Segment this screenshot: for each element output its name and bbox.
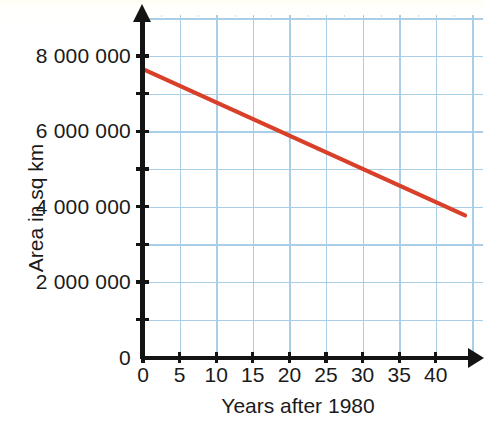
x-axis-line (141, 356, 473, 361)
grid-line-horizontal-major (143, 56, 483, 57)
x-axis-tick (251, 352, 254, 363)
y-axis-line (140, 15, 145, 359)
x-axis-tick (215, 352, 218, 363)
grid-line-horizontal-minor (143, 112, 483, 113)
grid-line-vertical-major (363, 15, 364, 357)
x-axis-tick (361, 352, 364, 363)
grid-line-vertical-major (180, 15, 181, 357)
y-axis-tick (136, 130, 149, 133)
grid-line-vertical-minor (161, 15, 162, 357)
grid-line-vertical-major (326, 15, 327, 357)
grid-line-horizontal-minor (143, 263, 483, 264)
grid-line-vertical-major (253, 15, 254, 357)
grid-line-vertical-major (472, 15, 473, 357)
x-tick-label: 25 (306, 364, 346, 385)
grid-line-horizontal-major (143, 207, 483, 208)
x-axis-tick (398, 352, 401, 363)
x-axis-tick (288, 352, 291, 363)
grid-line-vertical-major (399, 15, 400, 357)
grid-line-vertical-minor (198, 15, 199, 357)
y-axis-tick (136, 205, 149, 208)
x-tick-label: 40 (416, 364, 456, 385)
grid-line-horizontal-major (143, 18, 483, 19)
grid-line-vertical-minor (271, 15, 272, 357)
x-axis-tick (434, 352, 437, 363)
grid-line-horizontal-major (143, 131, 483, 132)
grid-line-horizontal-minor (143, 150, 483, 151)
grid-line-vertical-minor (344, 15, 345, 357)
grid-line-vertical-minor (381, 15, 382, 357)
x-axis-tick (324, 352, 327, 363)
x-axis-title: Years after 1980 (143, 394, 453, 418)
x-axis-tick (141, 352, 144, 363)
grid-line-horizontal-minor (143, 226, 483, 227)
y-tick-label-text: 4 000 000 (36, 196, 131, 217)
x-tick-label: 0 (123, 364, 163, 385)
grid-line-horizontal-major (143, 169, 483, 170)
y-axis-tick (136, 54, 149, 57)
x-axis-tick (178, 352, 181, 363)
y-axis-tick (136, 318, 149, 321)
y-tick-label-text: 6 000 000 (36, 120, 131, 141)
y-axis-tick (136, 243, 149, 246)
page-edge-tint (0, 0, 483, 10)
x-tick-label: 20 (269, 364, 309, 385)
y-tick-label-text: 2 000 000 (36, 271, 131, 292)
grid-line-horizontal-major (143, 282, 483, 283)
y-axis-tick (136, 92, 149, 95)
x-tick-label: 5 (160, 364, 200, 385)
x-tick-label: 10 (196, 364, 236, 385)
x-tick-label: 15 (233, 364, 273, 385)
x-tick-label: 35 (379, 364, 419, 385)
grid-line-horizontal-minor (143, 188, 483, 189)
grid-line-horizontal-major (143, 244, 483, 245)
x-axis-arrow-icon (468, 348, 484, 368)
grid-line-vertical-minor (454, 15, 455, 357)
grid-line-horizontal-minor (143, 75, 483, 76)
plot-area (143, 15, 483, 357)
grid-line-vertical-minor (235, 15, 236, 357)
x-tick-label: 30 (343, 364, 383, 385)
y-axis-title: Area in sq km (24, 108, 48, 308)
grid-line-horizontal-minor (143, 301, 483, 302)
grid-line-horizontal-major (143, 320, 483, 321)
grid-line-vertical-minor (308, 15, 309, 357)
grid-lines (143, 15, 483, 357)
y-tick-label-text: 8 000 000 (36, 45, 131, 66)
grid-line-vertical-major (436, 15, 437, 357)
y-axis-tick (136, 280, 149, 283)
y-axis-arrow-icon (133, 4, 151, 22)
grid-line-vertical-major (216, 15, 217, 357)
y-axis-tick (136, 167, 149, 170)
grid-line-horizontal-major (143, 94, 483, 95)
grid-line-horizontal-minor (143, 339, 483, 340)
grid-line-vertical-major (289, 15, 290, 357)
grid-line-vertical-minor (418, 15, 419, 357)
grid-line-horizontal-minor (143, 37, 483, 38)
